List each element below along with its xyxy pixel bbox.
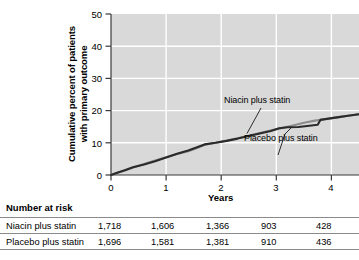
annotation-niacin-plus-statin: Niacin plus statin xyxy=(224,95,290,105)
risk-value: 1,696 xyxy=(98,234,151,250)
chart-plot-area: Cumulative percent of patients with prim… xyxy=(0,0,359,200)
risk-value: 436 xyxy=(316,234,359,250)
y-axis-title-line2: with primary outcome xyxy=(77,46,88,143)
risk-row-label: Placebo plus statin xyxy=(0,234,98,250)
risk-value: 1,381 xyxy=(206,234,261,250)
risk-value: 1,606 xyxy=(151,218,206,234)
y-tick-label-50: 50 xyxy=(82,9,102,20)
risk-value: 903 xyxy=(261,218,316,234)
y-tick-label-30: 30 xyxy=(82,73,102,84)
risk-value: 1,581 xyxy=(151,234,206,250)
table-row: Placebo plus statin 1,696 1,581 1,381 91… xyxy=(0,234,359,250)
x-tick-label-4: 4 xyxy=(321,182,341,193)
y-tick-label-0: 0 xyxy=(82,170,102,181)
risk-value: 428 xyxy=(316,218,359,234)
x-axis-ticks xyxy=(111,175,331,181)
x-tick-label-3: 3 xyxy=(266,182,286,193)
y-tick-label-10: 10 xyxy=(82,138,102,149)
x-tick-label-0: 0 xyxy=(101,182,121,193)
number-at-risk-title: Number at risk xyxy=(6,202,73,213)
y-tick-label-40: 40 xyxy=(82,41,102,52)
x-tick-label-1: 1 xyxy=(156,182,176,193)
y-axis-title-line1: Cumulative percent of patients xyxy=(66,26,77,162)
kaplan-meier-chart-svg xyxy=(0,0,359,200)
risk-value: 1,718 xyxy=(98,218,151,234)
annotation-placebo-plus-statin: Placebo plus statin xyxy=(244,133,318,143)
risk-value: 910 xyxy=(261,234,316,250)
risk-value: 1,366 xyxy=(206,218,261,234)
y-axis-title-container: Cumulative percent of patients with prim… xyxy=(58,8,96,180)
risk-row-label: Niacin plus statin xyxy=(0,218,98,234)
number-at-risk-table: Niacin plus statin 1,718 1,606 1,366 903… xyxy=(0,217,359,250)
y-tick-label-20: 20 xyxy=(82,105,102,116)
figure-container: Cumulative percent of patients with prim… xyxy=(0,0,359,260)
y-axis-ticks xyxy=(106,14,112,175)
table-row: Niacin plus statin 1,718 1,606 1,366 903… xyxy=(0,218,359,234)
number-at-risk-block: Number at risk Niacin plus statin 1,718 … xyxy=(0,200,359,260)
